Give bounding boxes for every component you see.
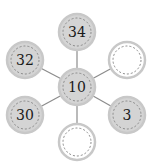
edge-lower-left <box>41 96 61 107</box>
node-upper-left: 32 <box>7 42 43 78</box>
node-bottom-circle <box>59 124 95 160</box>
edge-lower-right <box>93 96 112 106</box>
node-upper-right <box>109 42 145 78</box>
node-top: 34 <box>59 14 95 50</box>
edge-upper-right <box>93 69 111 79</box>
node-lower-left: 30 <box>7 97 43 133</box>
node-top-value: 34 <box>68 24 86 40</box>
hub-spoke-diagram: 103432303 10 34 32 30 3 <box>0 0 157 167</box>
node-lower-right: 3 <box>109 97 145 133</box>
node-upper-right-circle <box>109 42 145 78</box>
edge-upper-left <box>41 68 61 78</box>
node-center: 10 <box>59 69 95 105</box>
node-lower-right-value: 3 <box>123 107 132 123</box>
node-bottom <box>59 124 95 160</box>
node-upper-left-value: 32 <box>16 52 34 68</box>
nodes: 103432303 <box>7 14 145 160</box>
node-center-value: 10 <box>68 79 86 95</box>
node-lower-left-value: 30 <box>16 107 34 123</box>
diagram-canvas: 103432303 <box>0 0 157 167</box>
